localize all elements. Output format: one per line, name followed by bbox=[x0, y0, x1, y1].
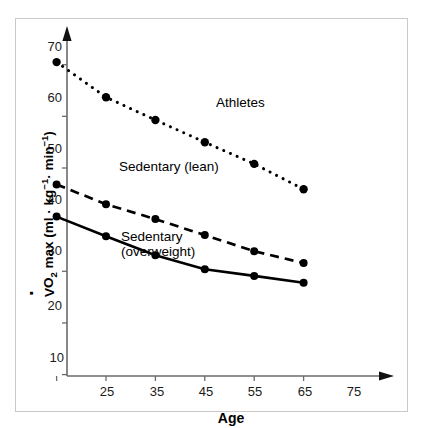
x-tick-label-65: 65 bbox=[285, 385, 325, 398]
data-point bbox=[299, 185, 307, 193]
data-point bbox=[250, 160, 258, 168]
x-tick-label-55: 55 bbox=[235, 385, 275, 398]
x-axis-title: Age bbox=[171, 410, 291, 426]
data-point bbox=[52, 58, 60, 66]
figure-container: 70 60 50 40 30 20 10 25 35 45 55 65 75 A… bbox=[0, 0, 425, 428]
figure-frame: 70 60 50 40 30 20 10 25 35 45 55 65 75 A… bbox=[15, 18, 408, 412]
series-label-overweight-line2: (overweight) bbox=[121, 244, 195, 259]
x-tick-label-75: 75 bbox=[334, 385, 374, 398]
data-point bbox=[201, 138, 209, 146]
data-point bbox=[300, 279, 308, 287]
chart-plot-area bbox=[16, 19, 407, 411]
data-point bbox=[201, 231, 209, 239]
v-dot-accent: V bbox=[41, 288, 56, 297]
y-tick-label-70: 70 bbox=[32, 40, 62, 53]
series-label-sedentary-lean: Sedentary (lean) bbox=[119, 159, 219, 174]
data-point bbox=[300, 259, 308, 267]
y-axis-arrowhead bbox=[62, 26, 71, 41]
y-axis-title: VO2 max (ml · kg−1· min−1) bbox=[39, 99, 59, 329]
data-point bbox=[201, 265, 209, 273]
data-point bbox=[102, 232, 110, 240]
x-tick-label-25: 25 bbox=[87, 385, 127, 398]
data-point bbox=[102, 93, 110, 101]
data-point bbox=[250, 272, 258, 280]
data-point bbox=[250, 247, 258, 255]
data-point bbox=[151, 215, 159, 223]
x-tick-label-45: 45 bbox=[186, 385, 226, 398]
x-tick-label-35: 35 bbox=[137, 385, 177, 398]
series-label-sedentary-overweight: Sedentary (overweight) bbox=[121, 229, 195, 259]
data-point bbox=[151, 116, 159, 124]
y-tick-label-10: 10 bbox=[34, 351, 64, 364]
x-axis-arrowhead bbox=[379, 371, 394, 380]
series-label-overweight-line1: Sedentary bbox=[121, 229, 183, 244]
data-point bbox=[102, 200, 110, 208]
series-label-athletes: Athletes bbox=[216, 95, 265, 110]
